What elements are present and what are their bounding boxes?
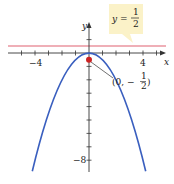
focus-label-open: (0, − xyxy=(112,77,135,87)
directrix-label-den: 2 xyxy=(133,19,139,29)
y-axis-label: y xyxy=(81,21,88,31)
focus-label-close: ) xyxy=(147,77,151,87)
y-tick-label-neg8: −8 xyxy=(73,155,87,165)
focus-label-num: 1 xyxy=(141,71,147,81)
y-axis-arrow-icon xyxy=(87,22,92,28)
directrix-label-lhs: y = xyxy=(111,14,128,24)
focus-label-den: 2 xyxy=(141,81,147,91)
parabola-chart: y = 1 2 −4 4 x y −8 (0, − 1 xyxy=(0,0,174,184)
x-tick-label-neg4: −4 xyxy=(29,58,43,68)
directrix-label-num: 1 xyxy=(133,7,139,17)
focus-point xyxy=(86,57,92,63)
x-tick-label-4: 4 xyxy=(140,58,146,68)
callout-pointer xyxy=(122,34,133,43)
x-axis-arrow-icon xyxy=(160,51,166,56)
x-axis-label: x xyxy=(164,57,169,67)
